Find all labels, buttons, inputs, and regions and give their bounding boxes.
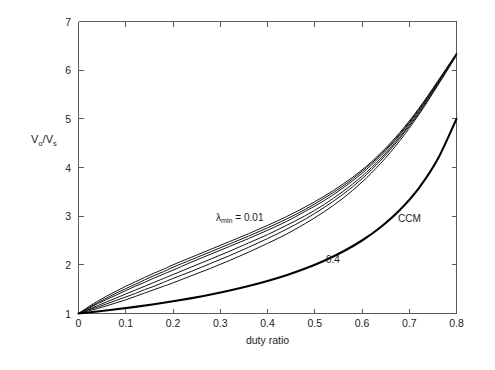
- lambda-min-label: λmin = 0.01: [216, 212, 264, 226]
- y-ticklabel-6: 6: [65, 64, 71, 76]
- y-ticklabel-7: 7: [65, 16, 71, 28]
- curve-group: [79, 53, 457, 313]
- curve-lambda-min-0-01: [79, 53, 457, 313]
- y-axis-ticks: [79, 22, 457, 314]
- lambda-value: = 0.01: [233, 212, 264, 223]
- x-ticklabel-0p4: 0.4: [260, 317, 275, 329]
- curve-lambda-min-0-2: [79, 55, 457, 314]
- x-ticklabel-0p8: 0.8: [449, 317, 464, 329]
- y-ticklabel-4: 4: [65, 162, 71, 174]
- x-ticklabel-0p7: 0.7: [402, 317, 417, 329]
- axes-frame: [79, 22, 457, 314]
- y-ticklabel-2: 2: [65, 259, 71, 271]
- x-axis-label: duty ratio: [246, 334, 289, 346]
- y-ticklabel-1: 1: [65, 308, 71, 320]
- curve-lambda-min-0-1: [79, 54, 457, 313]
- curve-lambda-min-0-05: [79, 54, 457, 314]
- y-axis-label: Vo/Vs: [31, 133, 57, 148]
- x-ticklabel-0p5: 0.5: [307, 317, 322, 329]
- svg-text:Vo/Vs: Vo/Vs: [31, 133, 57, 148]
- y-ticklabel-3: 3: [65, 210, 71, 222]
- x-tick-labels: 0 0.1 0.2 0.3 0.4 0.5 0.6 0.7 0.8: [76, 317, 464, 329]
- y-axis-label-slash: /V: [43, 133, 54, 145]
- y-ticklabel-5: 5: [65, 113, 71, 125]
- x-ticklabel-0p6: 0.6: [355, 317, 370, 329]
- curve-lambda-min-0-4: [79, 56, 457, 314]
- x-ticklabel-0: 0: [76, 317, 82, 329]
- x-ticklabel-0p1: 0.1: [118, 317, 133, 329]
- y-tick-labels: 1 2 3 4 5 6 7: [65, 16, 71, 320]
- x-ticklabel-0p2: 0.2: [166, 317, 181, 329]
- x-ticklabel-0p3: 0.3: [213, 317, 228, 329]
- y-axis-label-den-sub: s: [53, 139, 57, 148]
- lambda-subscript: min: [221, 216, 233, 225]
- figure-container: 1 2 3 4 5 6 7 0 0.1 0.2 0.3 0.4 0.5 0.6 …: [0, 0, 495, 370]
- chart-canvas: 1 2 3 4 5 6 7 0 0.1 0.2 0.3 0.4 0.5 0.6 …: [0, 0, 495, 370]
- ccm-label: CCM: [398, 213, 421, 224]
- x-axis-ticks: [79, 22, 457, 314]
- lambda-0p4-label: 0.4: [326, 254, 340, 265]
- curve-lambda-min-0-3: [79, 55, 457, 313]
